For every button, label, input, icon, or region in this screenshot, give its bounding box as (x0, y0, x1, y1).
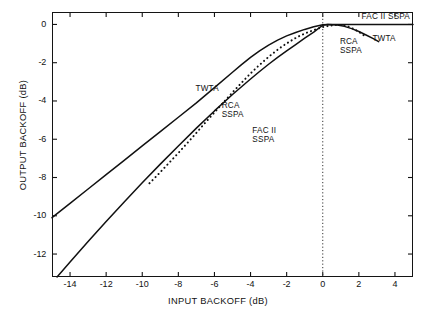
x-tick-label: -2 (272, 280, 302, 289)
x-tick-label: -6 (199, 280, 229, 289)
x-tick-label: -14 (55, 280, 85, 289)
label-rca-sspa-right: RCA SSPA (340, 37, 362, 55)
x-tick-label: -12 (91, 280, 121, 289)
y-axis-title: OUTPUT BACKOFF (dB) (18, 20, 28, 250)
y-tick-label: -12 (16, 250, 46, 259)
x-tick-label: 2 (344, 280, 374, 289)
x-tick-label: 0 (308, 280, 338, 289)
label-twta-right: TWTA (372, 34, 395, 43)
x-axis-title: INPUT BACKOFF (dB) (0, 296, 436, 306)
x-tick-label: -8 (163, 280, 193, 289)
chart-figure: 0-2-4-6-8-10-12 -14-12-10-8-6-4-2024 TWT… (0, 0, 436, 322)
label-rca-sspa-left: RCA SSPA (222, 101, 244, 119)
label-fac-ii-sspa-left: FAC II SSPA (252, 126, 276, 144)
label-twta-left: TWTA (195, 84, 218, 93)
x-tick-label: 4 (380, 280, 410, 289)
x-tick-label: -4 (236, 280, 266, 289)
label-fac-ii-sspa-right: FAC II SSPA (362, 12, 410, 21)
x-tick-label: -10 (127, 280, 157, 289)
